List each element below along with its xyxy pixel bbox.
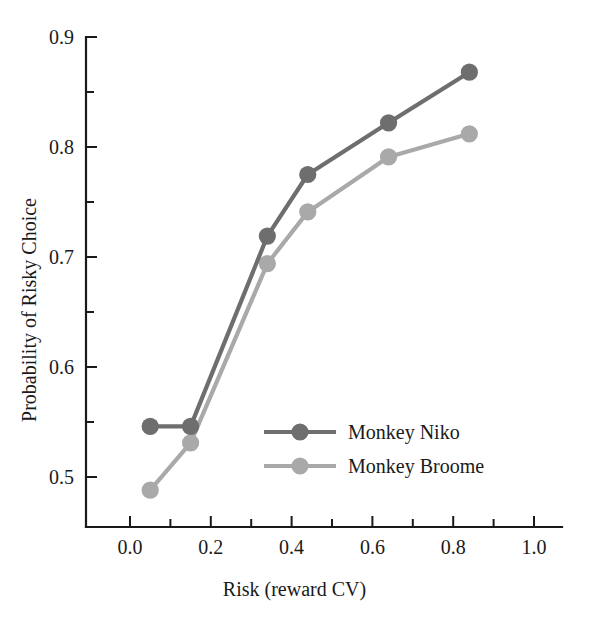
data-point xyxy=(299,203,316,220)
data-point xyxy=(380,148,397,165)
y-tick-label-0.8: 0.8 xyxy=(49,136,74,158)
chart-figure: 0.50.60.70.80.9 0.00.20.40.60.81.0 Monke… xyxy=(0,0,589,617)
data-point xyxy=(380,114,397,131)
y-axis-title: Probability of Risky Choice xyxy=(18,198,41,422)
data-point xyxy=(461,125,478,142)
x-tick-label-0.4: 0.4 xyxy=(279,536,304,558)
data-point xyxy=(259,255,276,272)
y-tick-label-0.5: 0.5 xyxy=(49,466,74,488)
legend-label: Monkey Niko xyxy=(348,421,460,444)
y-tick-label-0.9: 0.9 xyxy=(49,26,74,48)
data-point xyxy=(299,166,316,183)
y-tick-label-0.7: 0.7 xyxy=(49,246,74,268)
data-point xyxy=(182,418,199,435)
data-point xyxy=(461,64,478,81)
legend-marker-icon xyxy=(291,457,308,474)
data-point xyxy=(142,418,159,435)
y-tick-label-0.6: 0.6 xyxy=(49,356,74,378)
x-axis-title: Risk (reward CV) xyxy=(223,578,366,601)
data-point xyxy=(142,482,159,499)
data-point xyxy=(259,228,276,245)
legend-marker-icon xyxy=(291,423,308,440)
risky-choice-line-chart: 0.50.60.70.80.9 0.00.20.40.60.81.0 Monke… xyxy=(0,0,589,617)
x-tick-label-0.2: 0.2 xyxy=(198,536,223,558)
x-tick-label-0.0: 0.0 xyxy=(118,536,143,558)
x-tick-label-0.8: 0.8 xyxy=(441,536,466,558)
x-tick-label-1.0: 1.0 xyxy=(522,536,547,558)
x-tick-label-0.6: 0.6 xyxy=(360,536,385,558)
data-point xyxy=(182,434,199,451)
legend-label: Monkey Broome xyxy=(348,455,484,478)
